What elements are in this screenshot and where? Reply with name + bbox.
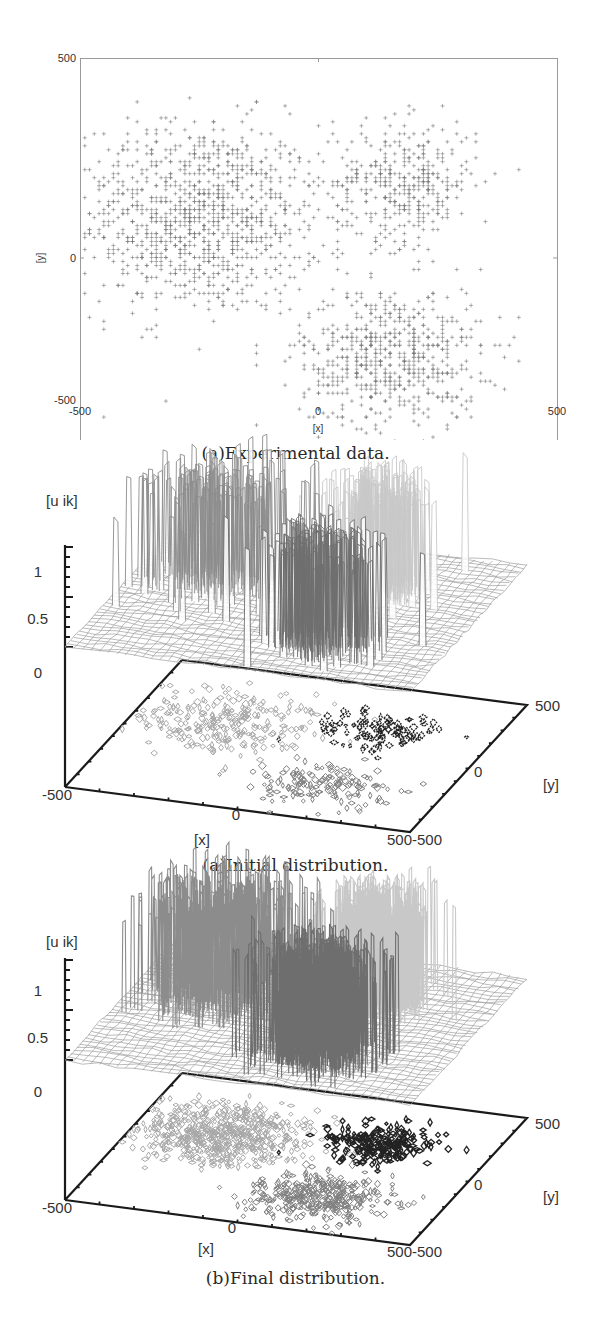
figure-final-distribution: [u ik] 1 0.5 0 -500 0 500 [x] -500 0 500… — [0, 0, 591, 1327]
y-tick-0: 0 — [474, 1176, 482, 1193]
x-tick-500: 500 — [387, 1243, 412, 1260]
x-tick-0: 0 — [228, 1219, 236, 1236]
z-tick-0: 0 — [34, 1083, 42, 1100]
x-axis-label: [x] — [198, 1240, 214, 1257]
z-axis-label: [u ik] — [46, 933, 78, 950]
y-axis-label: [y] — [543, 1188, 559, 1205]
z-tick-1: 1 — [34, 982, 42, 999]
z-tick-0-5: 0.5 — [27, 1029, 48, 1046]
y-tick-500: 500 — [535, 1115, 560, 1132]
caption-final-distribution: (b)Final distribution. — [0, 1268, 591, 1288]
final-axis-labels: [u ik] 1 0.5 0 -500 0 500 [x] -500 0 500… — [0, 0, 591, 1327]
x-tick-minus-500: -500 — [42, 1199, 72, 1216]
y-tick-minus-500: -500 — [412, 1243, 442, 1260]
